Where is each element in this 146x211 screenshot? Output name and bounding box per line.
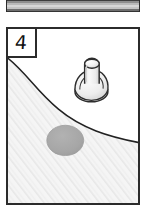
cropped-bar-above [6,0,140,12]
panel-number-box: 4 [6,27,37,58]
gray-blob-spot [47,125,84,155]
figure-sheet: 4 [0,0,146,211]
panel-number-label: 4 [15,33,28,52]
